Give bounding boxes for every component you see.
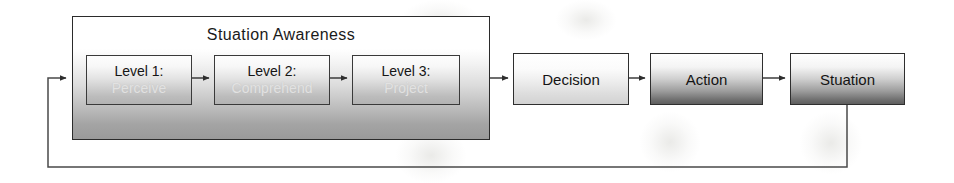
- situation-label: Stuation: [820, 71, 875, 88]
- level-2-box[interactable]: Level 2: Comprehend: [214, 55, 330, 105]
- scan-artifact: [556, 0, 616, 40]
- level-1-heading: Level 1:: [114, 64, 163, 79]
- situation-box[interactable]: Stuation: [790, 53, 905, 105]
- level-2-heading: Level 2:: [247, 64, 296, 79]
- level-3-box[interactable]: Level 3: Project: [352, 55, 460, 105]
- scan-artifact: [640, 112, 700, 172]
- level-1-subtitle: Perceive: [112, 80, 166, 96]
- decision-box[interactable]: Decision: [513, 53, 629, 105]
- situation-awareness-title: Stuation Awareness: [73, 26, 489, 44]
- level-3-heading: Level 3:: [381, 64, 430, 79]
- level-2-subtitle: Comprehend: [232, 80, 313, 96]
- decision-label: Decision: [542, 71, 600, 88]
- action-label: Action: [686, 71, 728, 88]
- level-3-subtitle: Project: [384, 80, 428, 96]
- situation-awareness-diagram: Stuation Awareness Level 1: Perceive Lev…: [0, 0, 954, 183]
- level-1-box[interactable]: Level 1: Perceive: [86, 55, 192, 105]
- action-box[interactable]: Action: [650, 53, 763, 105]
- scan-artifact: [800, 112, 862, 174]
